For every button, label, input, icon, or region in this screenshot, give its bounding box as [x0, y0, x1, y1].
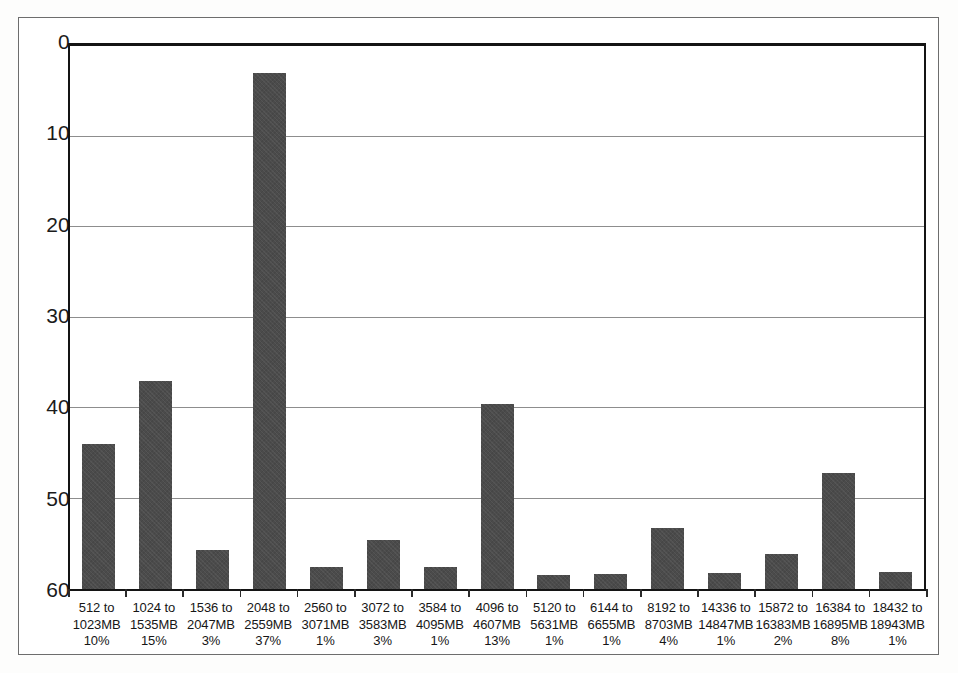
x-category-label: 4096 to4607MB13% — [468, 600, 525, 656]
bar-slot — [867, 46, 924, 589]
x-tick — [182, 589, 184, 597]
bar-slot — [696, 46, 753, 589]
x-category-line: 18432 to — [869, 600, 926, 617]
y-tick-label: 30 — [22, 305, 70, 326]
bar-slot — [241, 46, 298, 589]
x-axis-ticks — [68, 589, 926, 598]
x-category-label: 3072 to3583MB3% — [354, 600, 411, 656]
x-category-line: 1024 to — [125, 600, 182, 617]
x-category-line: 2560 to — [297, 600, 354, 617]
x-category-line: 3072 to — [354, 600, 411, 617]
x-category-percent: 10% — [68, 633, 125, 650]
bar-chart-figure: 0102030405060 512 to1023MB10%1024 to1535… — [0, 0, 958, 673]
bar-slot — [753, 46, 810, 589]
x-category-line: 2048 to — [240, 600, 297, 617]
x-category-percent: 8% — [812, 633, 869, 650]
x-tick — [697, 589, 699, 597]
x-tick — [640, 589, 642, 597]
x-category-line: 1535MB — [125, 617, 182, 634]
x-tick — [240, 589, 242, 597]
bar[interactable] — [879, 572, 912, 589]
x-category-label: 6144 to6655MB1% — [583, 600, 640, 656]
x-category-line: 1023MB — [68, 617, 125, 634]
bar-slot — [469, 46, 526, 589]
bar-slot — [184, 46, 241, 589]
x-category-label: 2560 to3071MB1% — [297, 600, 354, 656]
x-category-percent: 2% — [754, 633, 811, 650]
x-category-line: 16895MB — [812, 617, 869, 634]
x-category-line: 3071MB — [297, 617, 354, 634]
y-tick-label: 50 — [22, 488, 70, 509]
plot-area — [68, 43, 926, 591]
bar[interactable] — [708, 573, 741, 589]
x-tick — [354, 589, 356, 597]
x-category-line: 6144 to — [583, 600, 640, 617]
bars-series — [70, 46, 924, 589]
x-tick — [468, 589, 470, 597]
x-tick — [297, 589, 299, 597]
x-category-line: 16384 to — [812, 600, 869, 617]
bar-slot — [412, 46, 469, 589]
x-category-line: 3584 to — [411, 600, 468, 617]
y-axis: 0102030405060 — [22, 0, 70, 673]
x-category-line: 5631MB — [526, 617, 583, 634]
bar[interactable] — [765, 554, 798, 589]
x-tick — [869, 589, 871, 597]
x-category-percent: 4% — [640, 633, 697, 650]
x-category-percent: 13% — [468, 633, 525, 650]
x-category-line: 8192 to — [640, 600, 697, 617]
bar[interactable] — [537, 575, 570, 589]
bar[interactable] — [139, 381, 172, 589]
bar[interactable] — [651, 528, 684, 589]
bar[interactable] — [367, 540, 400, 589]
x-category-percent: 1% — [697, 633, 754, 650]
x-category-percent: 15% — [125, 633, 182, 650]
y-tick-label: 60 — [22, 579, 70, 600]
x-category-label: 2048 to2559MB37% — [240, 600, 297, 656]
bar[interactable] — [424, 567, 457, 589]
x-category-line: 2047MB — [182, 617, 239, 634]
x-tick — [125, 589, 127, 597]
x-category-label: 3584 to4095MB1% — [411, 600, 468, 656]
x-tick — [812, 589, 814, 597]
x-category-percent: 3% — [354, 633, 411, 650]
x-category-label: 15872 to16383MB2% — [754, 600, 811, 656]
x-category-percent: 37% — [240, 633, 297, 650]
x-tick — [411, 589, 413, 597]
x-category-label: 5120 to5631MB1% — [526, 600, 583, 656]
bar[interactable] — [481, 404, 514, 589]
bar[interactable] — [82, 444, 115, 589]
x-category-percent: 1% — [869, 633, 926, 650]
x-category-line: 1536 to — [182, 600, 239, 617]
y-tick-label: 10 — [22, 122, 70, 143]
x-tick — [926, 589, 928, 597]
y-tick-label: 0 — [22, 31, 70, 52]
x-category-label: 18432 to18943MB1% — [869, 600, 926, 656]
bar-slot — [355, 46, 412, 589]
bar-slot — [127, 46, 184, 589]
x-category-line: 14336 to — [697, 600, 754, 617]
x-axis-labels: 512 to1023MB10%1024 to1535MB15%1536 to20… — [68, 600, 926, 656]
y-tick-label: 20 — [22, 214, 70, 235]
x-category-label: 1024 to1535MB15% — [125, 600, 182, 656]
x-category-line: 15872 to — [754, 600, 811, 617]
bar-slot — [810, 46, 867, 589]
bar[interactable] — [822, 473, 855, 589]
bar[interactable] — [253, 73, 286, 589]
plot-inner — [70, 46, 924, 589]
bar-slot — [639, 46, 696, 589]
x-category-line: 8703MB — [640, 617, 697, 634]
x-category-percent: 1% — [583, 633, 640, 650]
y-tick-label: 40 — [22, 396, 70, 417]
bar[interactable] — [310, 567, 343, 589]
x-tick — [583, 589, 585, 597]
x-category-line: 4096 to — [468, 600, 525, 617]
x-category-line: 2559MB — [240, 617, 297, 634]
x-category-percent: 1% — [411, 633, 468, 650]
x-category-percent: 1% — [297, 633, 354, 650]
bar-slot — [582, 46, 639, 589]
x-category-label: 1536 to2047MB3% — [182, 600, 239, 656]
x-category-line: 4095MB — [411, 617, 468, 634]
bar[interactable] — [196, 550, 229, 589]
bar[interactable] — [594, 574, 627, 589]
